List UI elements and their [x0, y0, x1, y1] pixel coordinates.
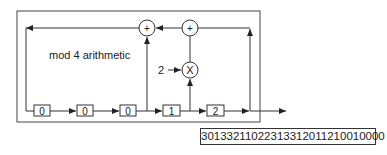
multiplier-constant: 2: [158, 64, 164, 76]
register-r5-value: 2: [213, 106, 219, 117]
register-r2: 0: [77, 105, 93, 117]
adder-2-symbol: +: [187, 23, 193, 34]
adder-1: +: [139, 20, 155, 36]
register-r3-value: 0: [125, 106, 131, 117]
output-sequence: 30133211022313312011210010000: [200, 128, 376, 145]
adder-2: +: [182, 20, 198, 36]
register-r3: 0: [120, 105, 136, 117]
adder-1-symbol: +: [144, 23, 150, 34]
register-r2-value: 0: [82, 106, 88, 117]
register-r1: 0: [34, 105, 50, 117]
multiplier: X: [182, 62, 198, 78]
caption: mod 4 arithmetic: [49, 49, 131, 61]
register-r1-value: 0: [39, 106, 45, 117]
register-r5: 2: [207, 105, 224, 117]
register-r4: 1: [163, 105, 180, 117]
register-r4-value: 1: [169, 106, 175, 117]
multiplier-symbol: X: [186, 64, 194, 76]
